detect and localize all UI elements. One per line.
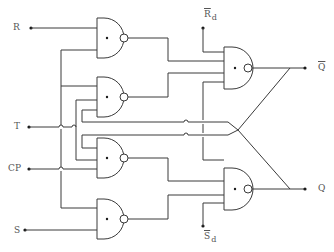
- wire-g3-out: [128, 158, 224, 181]
- wire-rd: [203, 28, 224, 52]
- circuit-schematic: [0, 0, 334, 252]
- label-q: Q: [318, 184, 325, 193]
- wire-bus-left: [61, 50, 97, 208]
- wire-g2-out: [128, 73, 224, 97]
- label-rd-sub: d: [212, 13, 217, 22]
- nand-gate-3: [97, 138, 128, 178]
- nand-gate-6: [224, 168, 253, 210]
- wire-cp: [29, 167, 97, 169]
- wire-cross-vertical: [203, 82, 224, 160]
- nand-gate-1: [97, 18, 128, 58]
- label-sd-sub: d: [211, 235, 216, 244]
- label-rd: Rd: [204, 10, 217, 19]
- wire-g1-out: [128, 38, 224, 61]
- label-t: T: [14, 122, 20, 131]
- label-cp: CP: [8, 164, 21, 173]
- nand-gate-2: [97, 77, 128, 117]
- nand-gate-4: [97, 199, 128, 239]
- wire-t-to-g3: [76, 127, 97, 160]
- wire-sd: [203, 203, 224, 226]
- label-sd-main: S: [204, 231, 210, 241]
- output-terminal-qbar: [303, 66, 306, 69]
- output-terminal-q: [303, 187, 306, 190]
- wire-g4-out: [128, 195, 224, 219]
- label-sd: Sd: [204, 232, 216, 241]
- label-r: R: [13, 23, 20, 32]
- label-qbar: Q: [318, 63, 325, 72]
- nand-gate-5: [224, 47, 253, 89]
- logic-diagram: R T CP S Rd Sd Q Q: [0, 0, 334, 252]
- wire-t: [29, 100, 97, 127]
- label-rd-main: R: [204, 9, 211, 19]
- label-s: S: [14, 226, 20, 235]
